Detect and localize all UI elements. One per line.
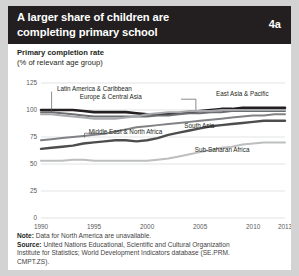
figure-footnotes: Note: Data for North America are unavail… [17, 232, 285, 266]
y-tick-label: 100 [26, 106, 37, 113]
y-tick-label: 25 [30, 187, 38, 194]
x-tick-label: 1990 [34, 223, 49, 230]
series-label-middle-east-north-africa: Middle East & North Africa [89, 128, 163, 135]
chart-subtitle-secondary: (% of relevant age group) [17, 58, 103, 67]
x-tick-label: 2000 [140, 223, 155, 230]
x-tick-label: 2005 [193, 223, 208, 230]
leader-line-europe-central-asia [181, 99, 196, 110]
source-text-2: Institute for Statistics; World Developm… [17, 249, 230, 256]
series-label-south-asia: South Asia [184, 122, 215, 129]
series-label-sub-saharan-africa: Sub-Saharan Africa [195, 146, 250, 153]
note-label: Note: [17, 232, 34, 239]
source-row-2: Institute for Statistics; World Developm… [17, 249, 285, 258]
figure-header: A larger share of children are completin… [8, 6, 291, 44]
figure-number-badge: 4a [269, 18, 281, 30]
series-label-latin-america-caribbean: Latin America & Caribbean [57, 85, 132, 92]
series-label-europe-central-asia: Europe & Central Asia [80, 93, 142, 101]
source-label: Source: [17, 241, 42, 248]
y-tick-label: 75 [30, 133, 38, 140]
source-row-3: CMPT.ZS). [17, 258, 285, 267]
line-chart: 0255075100125199019952000200520102013Lat… [8, 68, 291, 228]
series-label-east-asia-pacific: East Asia & Pacific [216, 90, 268, 97]
source-row-1: Source: United Nations Educational, Scie… [17, 241, 285, 250]
source-text-1: United Nations Educational, Scientific a… [42, 241, 230, 248]
x-tick-label: 2013 [278, 223, 291, 230]
chart-subtitle-primary: Primary completion rate [17, 48, 104, 57]
y-tick-label: 125 [26, 79, 37, 86]
x-tick-label: 1995 [87, 223, 102, 230]
chart-svg: 0255075100125199019952000200520102013Lat… [8, 68, 291, 230]
source-text-3: CMPT.ZS). [17, 258, 49, 265]
y-tick-label: 0 [33, 214, 37, 221]
figure-title: A larger share of children are completin… [17, 10, 222, 39]
x-tick-label: 2010 [246, 223, 261, 230]
figure-card: A larger share of children are completin… [8, 6, 291, 270]
note-text: Data for North America are unavailable. [34, 232, 151, 239]
note-row: Note: Data for North America are unavail… [17, 232, 285, 241]
y-tick-label: 50 [30, 160, 38, 167]
